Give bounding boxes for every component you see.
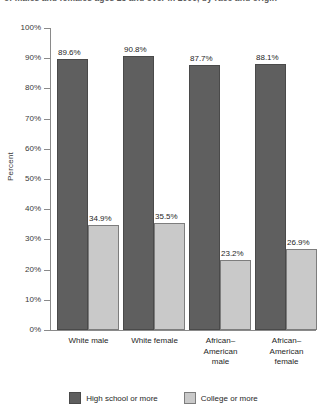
x-axis-label: White female (117, 336, 192, 347)
y-axis-tick-label: 80% (0, 84, 41, 92)
bar-value-label: 34.9% (89, 214, 112, 223)
x-axis-line (50, 330, 316, 331)
legend-swatch-icon (69, 392, 81, 404)
x-axis-label-line: White male (51, 336, 126, 347)
bar-high-school[interactable] (189, 65, 220, 330)
chart-legend: High school or moreCollege or more (0, 392, 327, 404)
x-axis-label-line: male (183, 357, 258, 368)
y-axis-tick-label: 70% (0, 115, 41, 123)
bar-value-label: 35.5% (155, 212, 178, 221)
x-axis-label: African–Americanmale (183, 336, 258, 368)
bar-value-label: 23.2% (221, 249, 244, 258)
bar-value-label: 88.1% (256, 53, 279, 62)
bar-value-label: 89.6% (58, 48, 81, 57)
legend-item-high-school[interactable]: High school or more (69, 392, 158, 404)
x-axis-label: White male (51, 336, 126, 347)
y-axis-tick-label: 100% (0, 24, 41, 32)
x-axis-label-line: American (249, 347, 324, 358)
y-axis-tick-label: 20% (0, 266, 41, 274)
x-axis-label-line: White female (117, 336, 192, 347)
bar-college[interactable] (286, 249, 317, 330)
x-axis-label-line: African– (183, 336, 258, 347)
y-axis-tick-label: 50% (0, 175, 41, 183)
plot-area (50, 28, 312, 330)
legend-label: High school or more (86, 394, 158, 403)
bar-value-label: 26.9% (287, 238, 310, 247)
legend-swatch-icon (184, 392, 196, 404)
bar-college[interactable] (220, 260, 251, 330)
y-axis-tick-label: 0% (0, 326, 41, 334)
bar-college[interactable] (154, 223, 185, 330)
x-axis-label-line: female (249, 357, 324, 368)
x-axis-label-line: African– (249, 336, 324, 347)
legend-label: College or more (201, 394, 258, 403)
y-axis-tick (44, 330, 50, 331)
y-axis-tick-label: 90% (0, 54, 41, 62)
bar-value-label: 90.8% (124, 45, 147, 54)
y-axis-tick-label: 30% (0, 235, 41, 243)
x-axis-label-line: American (183, 347, 258, 358)
y-axis-tick-label: 60% (0, 145, 41, 153)
bar-high-school[interactable] (57, 59, 88, 330)
y-axis-tick-label: 10% (0, 296, 41, 304)
bar-chart: Percent 100%90%80%70%60%50%40%30%20%10%0… (0, 0, 327, 412)
bar-high-school[interactable] (123, 56, 154, 330)
y-axis-tick-label: 40% (0, 205, 41, 213)
legend-item-college[interactable]: College or more (184, 392, 258, 404)
bar-high-school[interactable] (255, 64, 286, 330)
bar-college[interactable] (88, 225, 119, 330)
x-axis-label: African–Americanfemale (249, 336, 324, 368)
bar-value-label: 87.7% (190, 54, 213, 63)
